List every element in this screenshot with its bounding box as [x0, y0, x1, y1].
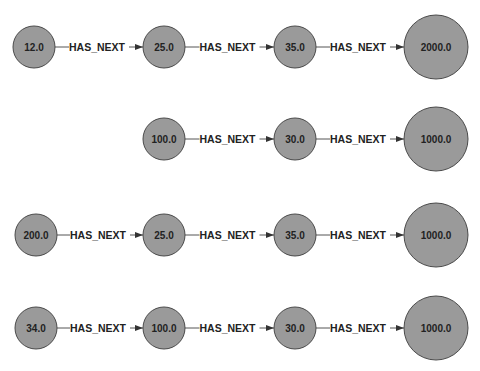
- node-label: 35.0: [285, 42, 305, 53]
- edge-has-next[interactable]: HAS_NEXT: [316, 132, 404, 146]
- edge-has-next[interactable]: HAS_NEXT: [316, 321, 404, 335]
- edge-label: HAS_NEXT: [199, 133, 256, 145]
- graph-node[interactable]: 34.0: [15, 307, 57, 349]
- node-label: 1000.0: [421, 230, 452, 241]
- node-label: 30.0: [285, 323, 305, 334]
- node-label: 2000.0: [421, 42, 452, 53]
- graph-node[interactable]: 35.0: [274, 26, 316, 68]
- node-label: 30.0: [285, 134, 305, 145]
- edge-has-next[interactable]: HAS_NEXT: [55, 40, 143, 54]
- chain-row: HAS_NEXTHAS_NEXTHAS_NEXT12.025.035.02000…: [13, 15, 468, 79]
- graph-node[interactable]: 1000.0: [404, 203, 468, 267]
- node-label: 1000.0: [421, 323, 452, 334]
- node-label: 100.0: [151, 323, 176, 334]
- edge-label: HAS_NEXT: [330, 229, 387, 241]
- graph-node[interactable]: 2000.0: [404, 15, 468, 79]
- graph-node[interactable]: 100.0: [143, 118, 185, 160]
- graph-canvas: HAS_NEXTHAS_NEXTHAS_NEXT12.025.035.02000…: [0, 0, 480, 371]
- node-label: 1000.0: [421, 134, 452, 145]
- edge-has-next[interactable]: HAS_NEXT: [185, 321, 274, 335]
- edge-label: HAS_NEXT: [69, 41, 126, 53]
- node-label: 34.0: [26, 323, 46, 334]
- chain-row: HAS_NEXTHAS_NEXT100.030.01000.0: [143, 107, 468, 171]
- edge-label: HAS_NEXT: [330, 133, 387, 145]
- edge-label: HAS_NEXT: [70, 322, 127, 334]
- graph-node[interactable]: 100.0: [143, 307, 185, 349]
- graph-node[interactable]: 25.0: [143, 26, 185, 68]
- node-label: 25.0: [154, 42, 174, 53]
- graph-node[interactable]: 35.0: [274, 214, 316, 256]
- node-label: 100.0: [151, 134, 176, 145]
- edge-has-next[interactable]: HAS_NEXT: [185, 228, 274, 242]
- chains-layer: HAS_NEXTHAS_NEXTHAS_NEXT12.025.035.02000…: [13, 15, 468, 360]
- graph-node[interactable]: 1000.0: [404, 296, 468, 360]
- chain-row: HAS_NEXTHAS_NEXTHAS_NEXT34.0100.030.0100…: [15, 296, 468, 360]
- edge-label: HAS_NEXT: [199, 229, 256, 241]
- edge-label: HAS_NEXT: [199, 41, 256, 53]
- graph-node[interactable]: 30.0: [274, 307, 316, 349]
- graph-node[interactable]: 200.0: [15, 214, 57, 256]
- edge-label: HAS_NEXT: [70, 229, 127, 241]
- edge-label: HAS_NEXT: [330, 41, 387, 53]
- edge-label: HAS_NEXT: [199, 322, 256, 334]
- graph-node[interactable]: 1000.0: [404, 107, 468, 171]
- graph-node[interactable]: 12.0: [13, 26, 55, 68]
- chain-row: HAS_NEXTHAS_NEXTHAS_NEXT200.025.035.0100…: [15, 203, 468, 267]
- edge-has-next[interactable]: HAS_NEXT: [316, 40, 404, 54]
- edge-has-next[interactable]: HAS_NEXT: [185, 40, 274, 54]
- node-label: 200.0: [23, 230, 48, 241]
- edge-has-next[interactable]: HAS_NEXT: [185, 132, 274, 146]
- node-label: 35.0: [285, 230, 305, 241]
- node-label: 12.0: [24, 42, 44, 53]
- graph-node[interactable]: 30.0: [274, 118, 316, 160]
- edge-label: HAS_NEXT: [330, 322, 387, 334]
- node-label: 25.0: [154, 230, 174, 241]
- edge-has-next[interactable]: HAS_NEXT: [57, 321, 143, 335]
- edge-has-next[interactable]: HAS_NEXT: [57, 228, 143, 242]
- edge-has-next[interactable]: HAS_NEXT: [316, 228, 404, 242]
- graph-node[interactable]: 25.0: [143, 214, 185, 256]
